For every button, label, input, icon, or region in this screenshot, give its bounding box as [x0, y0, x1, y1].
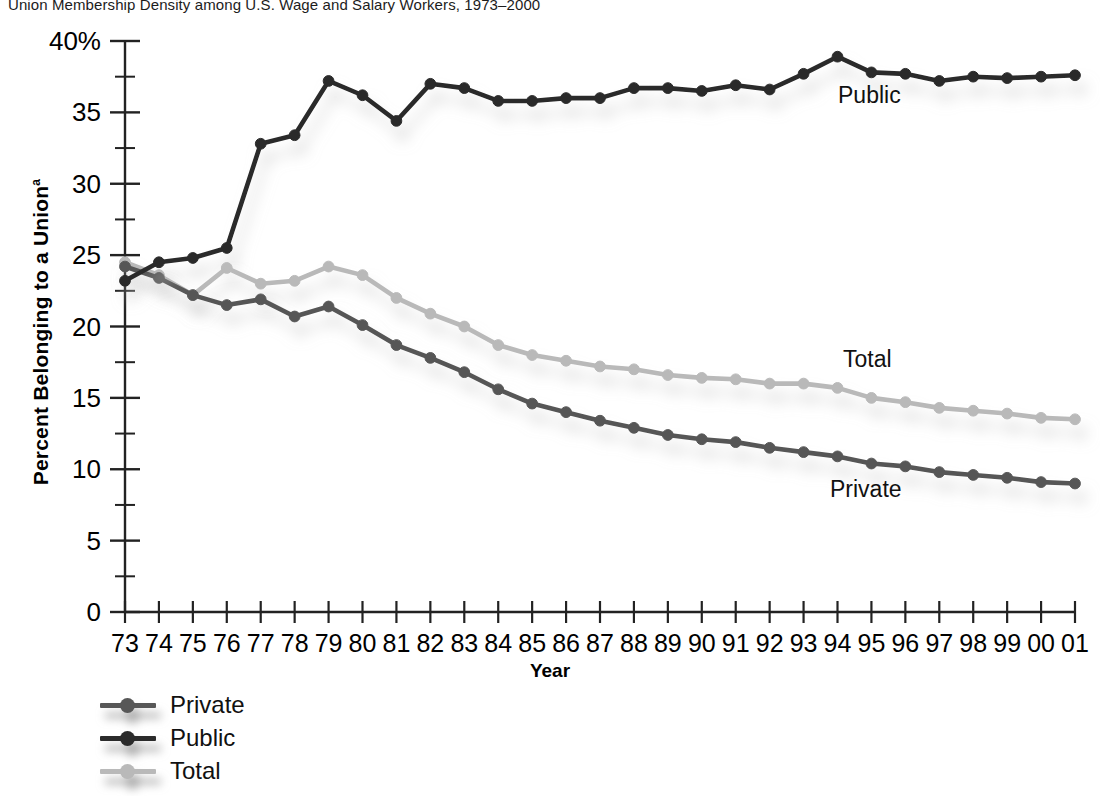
legend-item-public[interactable]: Public: [100, 721, 420, 754]
svg-text:20: 20: [72, 312, 101, 342]
svg-text:90: 90: [688, 629, 716, 657]
svg-text:95: 95: [858, 629, 886, 657]
svg-text:30: 30: [72, 169, 101, 199]
svg-text:98: 98: [959, 629, 987, 657]
svg-text:35: 35: [72, 97, 101, 127]
chart-series: [120, 51, 1081, 489]
svg-text:82: 82: [416, 629, 444, 657]
svg-text:73: 73: [111, 629, 139, 657]
legend-swatch-private-icon: [100, 694, 156, 716]
series-private: [120, 261, 1081, 489]
svg-text:25: 25: [72, 240, 101, 270]
svg-text:0: 0: [87, 597, 101, 627]
annotation-public: Public: [838, 82, 901, 108]
legend-swatch-public-icon: [100, 727, 156, 749]
svg-text:75: 75: [179, 629, 207, 657]
svg-text:15: 15: [72, 383, 101, 413]
svg-text:97: 97: [925, 629, 953, 657]
svg-text:76: 76: [213, 629, 241, 657]
series-annotations: PublicTotalPrivate: [830, 82, 902, 502]
series-total: [120, 257, 1081, 425]
svg-text:10: 10: [72, 454, 101, 484]
x-axis-label: Year: [0, 660, 1100, 682]
svg-text:74: 74: [145, 629, 173, 657]
svg-text:89: 89: [654, 629, 682, 657]
legend-item-private[interactable]: Private: [100, 688, 420, 721]
svg-text:84: 84: [484, 629, 512, 657]
svg-text:40%: 40%: [49, 26, 101, 56]
svg-text:77: 77: [247, 629, 275, 657]
annotation-private: Private: [830, 476, 902, 502]
svg-text:80: 80: [349, 629, 377, 657]
legend-label: Total: [170, 757, 221, 785]
svg-text:79: 79: [315, 629, 343, 657]
svg-text:85: 85: [518, 629, 546, 657]
svg-text:99: 99: [993, 629, 1021, 657]
legend-label: Private: [170, 691, 245, 719]
svg-text:81: 81: [383, 629, 411, 657]
y-axis-label-text: Percent Belonging to a Union: [29, 186, 52, 486]
svg-text:92: 92: [756, 629, 784, 657]
svg-text:86: 86: [552, 629, 580, 657]
chart-figure: Union Membership Density among U.S. Wage…: [0, 0, 1100, 796]
svg-text:01: 01: [1061, 629, 1089, 657]
svg-text:00: 00: [1027, 629, 1055, 657]
svg-text:93: 93: [790, 629, 818, 657]
svg-text:5: 5: [87, 526, 101, 556]
legend-swatch-total-icon: [100, 760, 156, 782]
svg-text:88: 88: [620, 629, 648, 657]
series-public: [120, 51, 1081, 286]
svg-text:83: 83: [450, 629, 478, 657]
svg-text:94: 94: [824, 629, 852, 657]
y-axis-label-footnote-marker: a: [29, 179, 43, 186]
legend-item-total[interactable]: Total: [100, 754, 420, 787]
y-axis-label: Percent Belonging to a Uniona: [29, 72, 53, 592]
legend-label: Public: [170, 724, 235, 752]
svg-text:96: 96: [891, 629, 919, 657]
svg-text:91: 91: [722, 629, 750, 657]
chart-legend: PrivatePublicTotal: [100, 688, 420, 787]
chart-axes: 40%3530252015105073747576777879808182838…: [49, 26, 1089, 657]
annotation-total: Total: [843, 346, 892, 372]
svg-text:78: 78: [281, 629, 309, 657]
svg-text:87: 87: [586, 629, 614, 657]
